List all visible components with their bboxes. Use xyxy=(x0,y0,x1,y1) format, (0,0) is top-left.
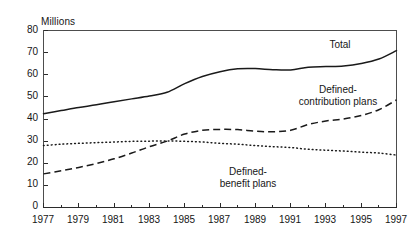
x-axis-ticks xyxy=(44,203,397,208)
plot-frame xyxy=(44,31,397,208)
y-axis-ticks xyxy=(44,31,48,208)
data-series-group xyxy=(44,51,397,174)
series-line-defined-benefit xyxy=(44,141,397,155)
chart-container: Millions 80 70 60 50 40 30 20 10 0 1977 … xyxy=(0,0,419,248)
chart-plot-svg xyxy=(0,0,419,248)
series-line-defined-contribution xyxy=(44,100,397,174)
series-line-total xyxy=(44,51,397,114)
